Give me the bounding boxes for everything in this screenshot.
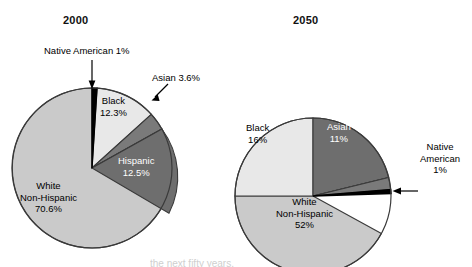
label-hispanic-2050-name: Hispanic (285, 96, 321, 108)
label-asian-2050-name: Asian (327, 121, 351, 133)
label-native-american-2000: Native American 1% (44, 45, 130, 57)
label-black-2050-name: Black (246, 122, 269, 134)
label-hispanic-2000: Hispanic 12.5% (118, 155, 154, 178)
label-asian-2000: Asian 3.6% (152, 72, 200, 84)
label-asian-2050: Asian 11% (327, 121, 351, 144)
label-white-2000-l2: Non-Hispanic (20, 192, 77, 204)
label-white-2000-pct: 70.6% (20, 203, 77, 215)
label-native-2050-l2: American (420, 153, 460, 165)
label-black-2050-pct: 16% (246, 134, 269, 146)
label-hispanic-2050: Hispanic 21% (285, 96, 321, 119)
label-native-2050-pct: 1% (420, 164, 460, 176)
label-hispanic-2050-pct: 21% (285, 108, 321, 120)
figure-canvas: 2000 2050 (0, 0, 472, 267)
label-white-2000-l1: White (20, 180, 77, 192)
label-black-2000-name: Black (100, 95, 127, 107)
label-white-2050-pct: 52% (276, 219, 333, 231)
label-black-2050: Black 16% (246, 122, 269, 145)
label-white-2050-l1: White (276, 196, 333, 208)
leader-native-american-2000 (89, 60, 96, 89)
label-asian-2050-pct: 11% (327, 133, 351, 145)
leader-asian-2000 (152, 84, 169, 101)
label-hispanic-2000-name: Hispanic (118, 155, 154, 167)
label-hispanic-2000-pct: 12.5% (118, 167, 154, 179)
caption-clipped: the next fifty years. (150, 258, 234, 267)
label-black-2000: Black 12.3% (100, 95, 127, 118)
leader-native-american-2050 (393, 188, 419, 195)
pie-charts-svg (0, 0, 472, 267)
label-white-non-hispanic-2000: White Non-Hispanic 70.6% (20, 180, 77, 215)
label-black-2000-pct: 12.3% (100, 107, 127, 119)
label-white-non-hispanic-2050: White Non-Hispanic 52% (276, 196, 333, 231)
label-native-american-2050: Native American 1% (420, 141, 460, 176)
label-white-2050-l2: Non-Hispanic (276, 208, 333, 220)
label-native-2050-l1: Native (420, 141, 460, 153)
